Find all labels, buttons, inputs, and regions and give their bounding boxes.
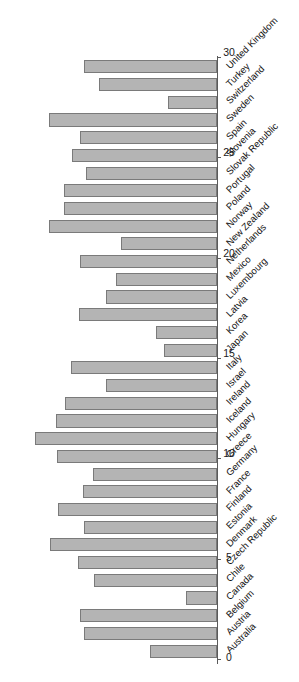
bar-latvia: [12, 308, 217, 321]
bar-netherlands: [12, 255, 217, 268]
bar-rect: [71, 361, 217, 374]
bar-slovenia: [12, 149, 217, 162]
bar-united-kingdom: [12, 60, 217, 73]
value-tick: [217, 57, 221, 58]
category-label: United Kingdom: [224, 15, 280, 71]
plot-area: [12, 58, 217, 660]
bar-belgium: [12, 609, 217, 622]
bar-rect: [84, 521, 217, 534]
bar-rect: [106, 291, 217, 304]
category-axis-labels: AustraliaAustriaBelgiumCanadaChileCzech …: [222, 58, 292, 660]
bar-rect: [86, 167, 217, 180]
bar-turkey: [12, 78, 217, 91]
bar-chart-figure: 051015202530 AustraliaAustriaBelgiumCana…: [0, 0, 299, 682]
bar-germany: [12, 468, 217, 481]
bar-rect: [94, 574, 217, 587]
bar-rect: [116, 273, 217, 286]
bar-rect: [64, 202, 217, 215]
bar-rect: [84, 627, 217, 640]
bar-chile: [12, 574, 217, 587]
bar-austria: [12, 627, 217, 640]
bar-rect: [79, 308, 217, 321]
value-tick: [217, 258, 221, 259]
bar-switzerland: [12, 96, 217, 109]
bar-mexico: [12, 273, 217, 286]
bar-finland: [12, 503, 217, 516]
bar-rect: [72, 149, 217, 162]
bar-rect: [35, 432, 217, 445]
bar-rect: [57, 450, 217, 463]
bar-canada: [12, 592, 217, 605]
bar-italy: [12, 361, 217, 374]
bar-rect: [80, 131, 217, 144]
value-tick: [217, 157, 221, 158]
bar-rect: [65, 397, 217, 410]
bar-korea: [12, 326, 217, 339]
bar-norway: [12, 220, 217, 233]
bar-rect: [106, 379, 217, 392]
bar-slovak-republic: [12, 167, 217, 180]
figure-inner: 051015202530 AustraliaAustriaBelgiumCana…: [0, 0, 299, 682]
value-tick: [217, 659, 221, 660]
bar-sweden: [12, 113, 217, 126]
bar-rect: [150, 645, 217, 658]
value-tick: [217, 458, 221, 459]
rotated-figure-wrapper: 051015202530 AustraliaAustriaBelgiumCana…: [0, 0, 299, 682]
bar-rect: [49, 113, 217, 126]
bar-portugal: [12, 184, 217, 197]
bar-rect: [156, 326, 218, 339]
bar-rect: [93, 468, 217, 481]
value-axis-line: [217, 56, 218, 664]
bar-rect: [49, 220, 217, 233]
bar-israel: [12, 379, 217, 392]
bar-rect: [56, 414, 217, 427]
bar-australia: [12, 645, 217, 658]
bar-rect: [84, 60, 217, 73]
value-tick: [217, 358, 221, 359]
bar-ireland: [12, 397, 217, 410]
bar-rect: [78, 556, 217, 569]
bar-rect: [99, 78, 217, 91]
bar-rect: [80, 255, 217, 268]
bar-france: [12, 485, 217, 498]
bar-czech-republic: [12, 556, 217, 569]
bar-new-zealand: [12, 237, 217, 250]
bar-spain: [12, 131, 217, 144]
bar-rect: [164, 344, 217, 357]
value-tick: [217, 559, 221, 560]
bar-denmark: [12, 538, 217, 551]
bar-rect: [50, 538, 217, 551]
bar-rect: [186, 592, 217, 605]
bar-rect: [168, 96, 217, 109]
bar-japan: [12, 344, 217, 357]
bar-iceland: [12, 414, 217, 427]
bar-rect: [58, 503, 217, 516]
bar-rect: [64, 184, 217, 197]
bar-rect: [121, 237, 217, 250]
bar-hungary: [12, 432, 217, 445]
bar-rect: [83, 485, 217, 498]
bar-poland: [12, 202, 217, 215]
bar-greece: [12, 450, 217, 463]
bar-rect: [80, 609, 217, 622]
bar-luxembourg: [12, 291, 217, 304]
bar-estonia: [12, 521, 217, 534]
